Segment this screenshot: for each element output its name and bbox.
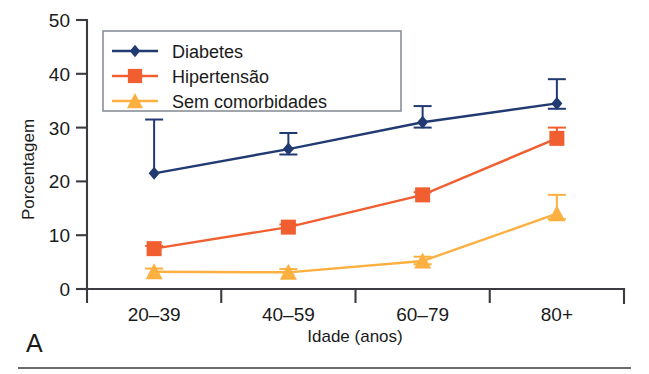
- series-2: [145, 128, 566, 257]
- marker-square: [147, 241, 162, 256]
- x-axis-ticks: [87, 289, 490, 303]
- series-line: [154, 214, 557, 273]
- marker-square: [415, 187, 430, 202]
- legend-label: Sem comorbidades: [172, 92, 327, 112]
- x-axis-tick-labels: 20–3940–5960–7980+: [128, 304, 573, 325]
- marker-diamond: [149, 167, 160, 180]
- y-tick-label-20: 20: [49, 171, 70, 192]
- marker-square: [128, 69, 142, 83]
- series-line: [154, 138, 557, 248]
- line-chart: 01020304050 20–3940–5960–7980+ Porcentag…: [0, 0, 649, 374]
- marker-triangle: [548, 205, 565, 221]
- chart-legend: DiabetesHipertensãoSem comorbidades: [103, 31, 401, 112]
- legend-label: Diabetes: [172, 42, 243, 62]
- y-tick-label-0: 0: [59, 279, 70, 300]
- x-tick-label-3: 80+: [541, 304, 573, 325]
- panel-label: A: [26, 329, 43, 357]
- marker-square: [549, 131, 564, 146]
- figure-panel: 01020304050 20–3940–5960–7980+ Porcentag…: [0, 0, 649, 374]
- x-tick-label-0: 20–39: [128, 304, 181, 325]
- series-3: [145, 195, 566, 280]
- y-tick-label-30: 30: [49, 118, 70, 139]
- y-tick-label-40: 40: [49, 64, 70, 85]
- y-tick-label-50: 50: [49, 10, 70, 31]
- x-tick-label-1: 40–59: [262, 304, 315, 325]
- legend-label: Hipertensão: [172, 67, 269, 87]
- y-tick-label-10: 10: [49, 225, 70, 246]
- marker-square: [281, 220, 296, 235]
- x-axis-title: Idade (anos): [307, 327, 402, 346]
- y-axis-title: Porcentagem: [19, 119, 38, 220]
- error-bar: [145, 120, 163, 174]
- y-axis-tick-labels: 01020304050: [49, 10, 70, 300]
- x-tick-label-2: 60–79: [396, 304, 449, 325]
- y-axis-ticks: [76, 20, 87, 289]
